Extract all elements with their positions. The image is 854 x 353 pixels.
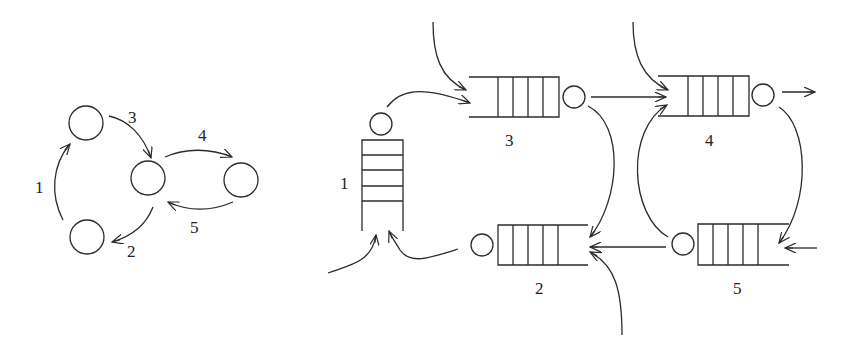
queue-2-to-queue-1-arrow — [389, 231, 458, 259]
edge-1-arrow — [55, 144, 70, 220]
queue-4: 4 — [633, 22, 815, 243]
queue-1-server — [370, 113, 392, 135]
queue-1: 1 — [328, 92, 470, 273]
queue-3-label: 3 — [505, 131, 514, 150]
queue-1-label: 1 — [340, 174, 349, 193]
graph-node-right — [224, 163, 258, 197]
queue-5-label: 5 — [733, 279, 742, 298]
queue-3-buffer — [469, 77, 559, 117]
queue-5-to-queue-4-arrow — [637, 105, 668, 237]
queue-2-server — [471, 234, 493, 256]
queue-2: 2 — [471, 225, 622, 335]
queue-5: 5 — [590, 105, 817, 298]
edge-3-label: 3 — [128, 108, 137, 127]
graph-node-bottom-left — [70, 220, 104, 254]
queue-4-to-queue-5-arrow — [779, 107, 802, 243]
edge-4-arrow — [165, 150, 232, 157]
queue-1-to-queue-3-arrow — [387, 92, 470, 107]
edge-2-label: 2 — [127, 242, 136, 261]
graph-node-top-left — [69, 106, 103, 140]
queue-2-external-arrival — [590, 252, 622, 335]
edge-4-label: 4 — [198, 126, 207, 145]
edge-5-arrow — [168, 202, 233, 209]
queue-5-server — [672, 233, 694, 255]
left-graph: 1 2 3 4 5 — [35, 106, 258, 261]
queue-1-external-arrival — [328, 235, 376, 273]
queue-4-label: 4 — [705, 131, 714, 150]
queue-4-external-arrival — [633, 22, 668, 90]
queueing-network-diagram: 1 2 3 4 5 1 3 — [0, 0, 854, 353]
queue-2-label: 2 — [535, 279, 544, 298]
edge-1-label: 1 — [35, 178, 44, 197]
graph-node-center — [131, 161, 165, 195]
edge-2-arrow — [112, 207, 153, 242]
edge-5-label: 5 — [190, 218, 199, 237]
queue-4-server — [752, 84, 774, 106]
queue-3-to-queue-2-arrow — [588, 106, 614, 237]
queue-3-server — [563, 86, 585, 108]
queue-3-external-arrival — [433, 22, 466, 90]
queue-3: 3 — [433, 22, 666, 237]
